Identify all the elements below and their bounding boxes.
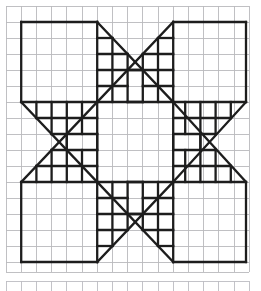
bottom-bowtie-motif bbox=[97, 182, 173, 262]
quilt-block-svg bbox=[0, 0, 261, 291]
quilt-block-figure: Eight-pointed star quilt block on graph … bbox=[0, 0, 261, 291]
left-bowtie-motif bbox=[21, 102, 97, 182]
right-bowtie-motif bbox=[173, 102, 246, 182]
top-bowtie-motif bbox=[97, 22, 173, 102]
bottom-graph-paper-strip bbox=[6, 281, 249, 291]
block-outer-border bbox=[21, 22, 246, 262]
